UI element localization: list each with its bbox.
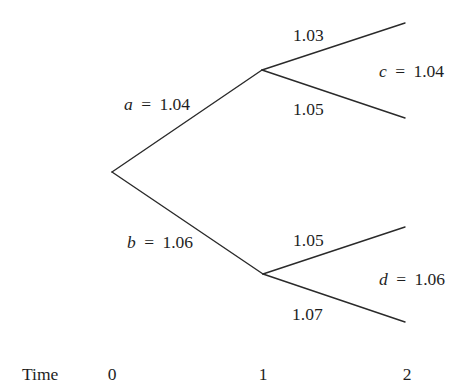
branch-root-to-up <box>112 70 262 172</box>
binomial-tree-diagram: a = 1.04 b = 1.06 1.03 1.05 1.05 1.07 c … <box>0 0 461 391</box>
value-d: 1.06 <box>414 269 445 289</box>
equals-sign: = <box>396 269 406 289</box>
equals-sign: = <box>144 232 154 252</box>
time-tick-0: 0 <box>108 364 117 384</box>
label-down-up-rate: 1.05 <box>293 230 324 250</box>
variable-a: a <box>124 94 133 114</box>
label-down-node-value: d = 1.06 <box>379 269 445 289</box>
label-up-up-rate: 1.03 <box>293 25 324 45</box>
label-root-up-rate: a = 1.04 <box>124 94 190 114</box>
branch-root-to-down <box>112 172 263 274</box>
label-root-down-rate: b = 1.06 <box>127 232 193 252</box>
branch-down-to-downup <box>263 227 405 274</box>
variable-d: d <box>379 269 388 289</box>
label-down-down-rate: 1.07 <box>292 304 323 324</box>
label-up-down-rate: 1.05 <box>293 99 324 119</box>
label-up-node-value: c = 1.04 <box>379 61 444 81</box>
time-tick-2: 2 <box>403 364 412 384</box>
value-a: 1.04 <box>159 94 190 114</box>
equals-sign: = <box>395 61 405 81</box>
value-c: 1.04 <box>413 61 444 81</box>
time-tick-1: 1 <box>259 364 268 384</box>
variable-c: c <box>379 61 387 81</box>
variable-b: b <box>127 232 136 252</box>
equals-sign: = <box>141 94 151 114</box>
value-b: 1.06 <box>162 232 193 252</box>
time-axis-label: Time <box>22 364 59 384</box>
